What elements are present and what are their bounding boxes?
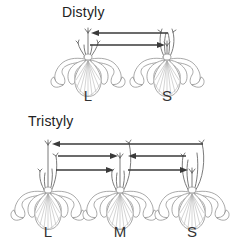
flower-tristyly-M: M (83, 140, 157, 240)
panel-distyly: Distyly (51, 4, 204, 104)
arrow-tristyly-L-to-M (58, 153, 118, 159)
flower-tristyly-L: L (11, 140, 85, 240)
style-long-tristyly-L (45, 140, 51, 191)
arrow-distyly-S-to-L (91, 30, 168, 36)
panel-tristyly: Tristyly (11, 113, 229, 240)
morph-label-tristyly-S: S (187, 223, 197, 240)
stamens-mid-tristyly-S (181, 153, 198, 191)
flower-tristyly-S: S (155, 140, 229, 240)
arrow-distyly-L-to-S (90, 42, 165, 48)
panel-title-distyly: Distyly (62, 4, 105, 20)
flower-distyly-S: S (130, 29, 204, 104)
morph-label-tristyly-L: L (44, 223, 52, 240)
arrow-tristyly-M-to-S (128, 167, 188, 173)
figure-canvas: Distyly (0, 0, 238, 243)
style-mid-tristyly-M (117, 153, 123, 191)
morph-label-distyly-L: L (84, 87, 92, 104)
flower-distyly-L: L (51, 28, 125, 104)
arrow-tristyly-S-to-M (128, 153, 186, 159)
style-long-L (85, 28, 91, 58)
heterostyly-figure: Distyly (0, 0, 238, 243)
morph-label-tristyly-M: M (114, 223, 127, 240)
arrow-tristyly-L-to-S (56, 167, 114, 173)
morph-label-distyly-S: S (162, 87, 172, 104)
panel-title-tristyly: Tristyly (28, 113, 73, 129)
